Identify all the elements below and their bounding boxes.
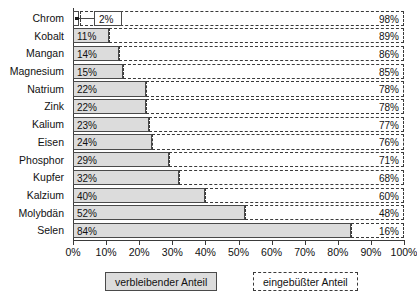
bar-row: 14%86% bbox=[73, 45, 404, 61]
category-label: Selen bbox=[37, 222, 64, 238]
bar-segment-remaining: 84% bbox=[73, 223, 351, 238]
mineral-retention-bar-chart: ChromKobaltManganMagnesiumNatriumZinkKal… bbox=[0, 0, 417, 307]
lost-value-label: 98% bbox=[379, 13, 399, 27]
axis-tick-label: 50% bbox=[228, 246, 249, 258]
category-label: Kalium bbox=[32, 116, 64, 132]
lost-value-label: 78% bbox=[379, 101, 399, 115]
axis-tick-label: 100% bbox=[391, 246, 417, 258]
bar-row: 40%60% bbox=[73, 187, 404, 203]
bar-row: 15%85% bbox=[73, 63, 404, 79]
bar-row: 22%78% bbox=[73, 98, 404, 114]
axis-tick-label: 80% bbox=[327, 246, 348, 258]
remaining-value-label: 22% bbox=[77, 101, 97, 115]
bar-segment-lost: 68% bbox=[179, 170, 404, 185]
category-axis-labels: ChromKobaltManganMagnesiumNatriumZinkKal… bbox=[0, 10, 69, 240]
bar-row: 29%71% bbox=[73, 152, 404, 168]
bar-row: 11%89% bbox=[73, 28, 404, 44]
bar-row: 52%48% bbox=[73, 205, 404, 221]
lost-value-label: 16% bbox=[379, 225, 399, 239]
lost-value-label: 89% bbox=[379, 30, 399, 44]
lost-value-label: 71% bbox=[379, 154, 399, 168]
remaining-value-label: 2% bbox=[99, 13, 113, 27]
bar-segment-lost: 89% bbox=[109, 28, 404, 43]
bar-row: 22%78% bbox=[73, 81, 404, 97]
bar-segment-lost: 86% bbox=[119, 46, 404, 61]
axis-tick-label: 10% bbox=[96, 246, 117, 258]
remaining-value-label: 29% bbox=[77, 154, 97, 168]
axis-tick-label: 0% bbox=[65, 246, 80, 258]
remaining-value-label: 15% bbox=[77, 66, 97, 80]
remaining-value-label: 24% bbox=[77, 136, 97, 150]
bar-segment-remaining: 11% bbox=[73, 28, 109, 43]
bar-segment-lost: 78% bbox=[146, 99, 404, 114]
remaining-value-label: 40% bbox=[77, 190, 97, 204]
bar-segment-lost: 78% bbox=[146, 81, 404, 96]
lost-value-label: 77% bbox=[379, 119, 399, 133]
bar-segment-lost: 48% bbox=[245, 205, 404, 220]
bar-segment-lost: 60% bbox=[205, 188, 404, 203]
category-label: Kupfer bbox=[33, 169, 64, 185]
bar-segment-remaining: 29% bbox=[73, 152, 169, 167]
remaining-value-label: 52% bbox=[77, 207, 97, 221]
bar-segment-lost: 98% bbox=[80, 11, 404, 26]
axis-tick-label: 60% bbox=[261, 246, 282, 258]
category-label: Mangan bbox=[26, 45, 64, 61]
axis-tick bbox=[239, 240, 240, 245]
axis-tick-label: 70% bbox=[294, 246, 315, 258]
legend-item-remaining: verbleibender Anteil bbox=[105, 272, 217, 291]
axis-tick-label: 90% bbox=[360, 246, 381, 258]
lost-value-label: 48% bbox=[379, 207, 399, 221]
bar-row: 84%16% bbox=[73, 222, 404, 238]
remaining-value-callout: 2% bbox=[94, 11, 122, 26]
axis-tick bbox=[139, 240, 140, 245]
remaining-value-label: 22% bbox=[77, 83, 97, 97]
chart-legend: verbleibender Anteil eingebüßter Anteil bbox=[0, 272, 417, 298]
bar-segment-remaining: 22% bbox=[73, 81, 146, 96]
axis-tick bbox=[73, 240, 74, 245]
bar-segment-remaining: 23% bbox=[73, 117, 149, 132]
lost-value-label: 60% bbox=[379, 190, 399, 204]
bar-segment-lost: 71% bbox=[169, 152, 404, 167]
legend-item-lost: eingebüßter Anteil bbox=[253, 272, 358, 291]
bar-segment-remaining: 14% bbox=[73, 46, 119, 61]
lost-value-label: 86% bbox=[379, 48, 399, 62]
remaining-value-label: 84% bbox=[77, 225, 97, 239]
axis-tick-label: 20% bbox=[129, 246, 150, 258]
axis-tick bbox=[404, 240, 405, 245]
bar-segment-lost: 76% bbox=[152, 134, 404, 149]
category-label: Zink bbox=[44, 98, 64, 114]
axis-tick-label: 40% bbox=[195, 246, 216, 258]
category-label: Kalzium bbox=[27, 187, 64, 203]
category-label: Phosphor bbox=[19, 152, 64, 168]
bar-row: 23%77% bbox=[73, 116, 404, 132]
axis-tick bbox=[371, 240, 372, 245]
category-label: Kobalt bbox=[34, 28, 64, 44]
axis-tick bbox=[305, 240, 306, 245]
category-label: Natrium bbox=[27, 81, 64, 97]
bar-row: 2%98% bbox=[73, 10, 404, 26]
bar-segment-remaining: 32% bbox=[73, 170, 179, 185]
category-label: Eisen bbox=[38, 134, 64, 150]
bar-row: 24%76% bbox=[73, 134, 404, 150]
category-label: Chrom bbox=[32, 10, 64, 26]
bar-segment-remaining: 15% bbox=[73, 64, 123, 79]
remaining-value-label: 14% bbox=[77, 48, 97, 62]
axis-tick bbox=[106, 240, 107, 245]
plot-area: 2%98%11%89%14%86%15%85%22%78%22%78%23%77… bbox=[73, 10, 404, 240]
bar-segment-lost: 77% bbox=[149, 117, 404, 132]
bar-segment-lost: 16% bbox=[351, 223, 404, 238]
lost-value-label: 85% bbox=[379, 66, 399, 80]
bar-segment-lost: 85% bbox=[123, 64, 404, 79]
axis-tick-label: 30% bbox=[162, 246, 183, 258]
axis-tick bbox=[338, 240, 339, 245]
bar-segment-remaining: 40% bbox=[73, 188, 205, 203]
lost-value-label: 68% bbox=[379, 172, 399, 186]
axis-tick bbox=[272, 240, 273, 245]
category-label: Molybdän bbox=[18, 205, 64, 221]
remaining-value-label: 23% bbox=[77, 119, 97, 133]
bar-segment-remaining: 24% bbox=[73, 134, 152, 149]
lost-value-label: 78% bbox=[379, 83, 399, 97]
lost-value-label: 76% bbox=[379, 136, 399, 150]
bar-segment-remaining: 52% bbox=[73, 205, 245, 220]
bar-row: 32%68% bbox=[73, 169, 404, 185]
